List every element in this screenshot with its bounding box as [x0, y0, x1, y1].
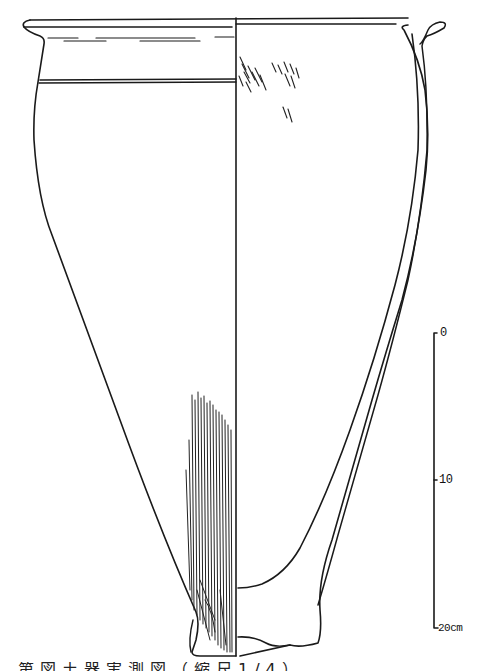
left-outer-profile — [24, 27, 236, 656]
band-line-lower — [39, 82, 236, 83]
scale-label-10: 10 — [439, 474, 452, 486]
surface-hatching — [186, 392, 232, 652]
vessel-drawing — [0, 0, 496, 671]
burnish-marks — [239, 57, 299, 122]
figure-caption-text: 第図土器実測図（縮尺1/4） — [18, 662, 496, 671]
right-inner-wall — [318, 22, 445, 605]
left-foot — [190, 620, 193, 652]
left-rim-lip — [23, 20, 232, 27]
interior-profile — [238, 34, 418, 588]
scale-bar — [434, 333, 438, 628]
scale-label-0: 0 — [440, 327, 447, 339]
rim-dash-line-1 — [48, 37, 234, 38]
right-outer-wall — [240, 25, 428, 656]
foot-interior — [238, 637, 290, 646]
rim-top-line — [30, 18, 408, 20]
band-line-upper — [40, 79, 236, 80]
figure-caption: 第図土器実測図（縮尺1/4） — [18, 662, 496, 671]
scale-label-20cm: 20cm — [438, 623, 462, 634]
